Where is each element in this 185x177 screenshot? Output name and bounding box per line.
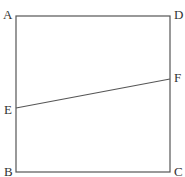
- square-diagram: A D E F B C: [0, 0, 185, 177]
- label-a: A: [3, 7, 13, 22]
- label-d: D: [174, 7, 183, 22]
- label-c: C: [174, 164, 183, 177]
- label-f: F: [174, 70, 181, 85]
- segment-ef: [16, 79, 170, 108]
- label-b: B: [4, 164, 13, 177]
- label-e: E: [4, 102, 12, 117]
